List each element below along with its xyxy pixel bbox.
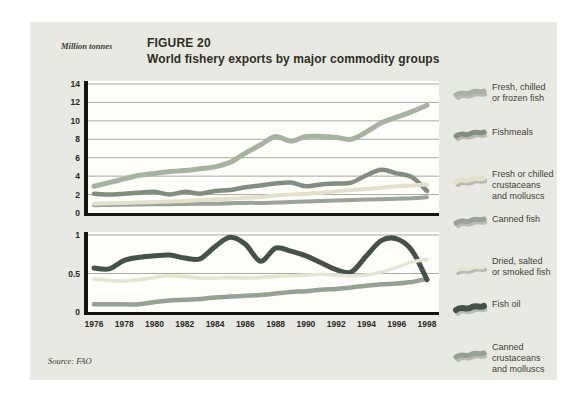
legend-label-line: or frozen fish <box>492 93 546 104</box>
y-tick-label: 6 <box>75 153 80 163</box>
legend-label-line: crustaceans <box>492 353 545 364</box>
legend-marker <box>453 262 487 278</box>
legend-label-line: Fresh or chilled <box>492 169 554 180</box>
legend-marker <box>453 348 487 364</box>
y-tick-label: 4 <box>75 171 80 181</box>
legend-label: Canned fish <box>492 214 540 225</box>
y-axis <box>84 232 88 315</box>
legend-label: Fresh, chilledor frozen fish <box>492 82 546 104</box>
y-tick-label: 0.5 <box>68 269 80 279</box>
legend-label-line: Fish oil <box>492 299 521 310</box>
legend-label: Fresh or chilledcrustaceansand molluscs <box>492 169 554 202</box>
legend-marker <box>453 127 487 143</box>
legend-label-line: and molluscs <box>492 191 554 202</box>
legend-marker <box>453 214 487 230</box>
x-tick-label: 1986 <box>236 319 255 329</box>
legend-label-line: and molluscs <box>492 364 545 375</box>
legend-label: Fishmeals <box>492 127 533 138</box>
y-tick-label: 0 <box>75 307 80 317</box>
legend-label-line: crustaceans <box>492 180 554 191</box>
y-tick-label: 1 <box>75 230 80 240</box>
y-tick-label: 14 <box>71 79 81 89</box>
legend-label-line: Dried, salted <box>492 256 551 267</box>
x-tick-label: 1978 <box>115 319 134 329</box>
x-tick-label: 1976 <box>85 319 104 329</box>
legend-label: Cannedcrustaceansand molluscs <box>492 342 545 375</box>
legend-marker <box>453 86 487 102</box>
x-tick-label: 1988 <box>266 319 285 329</box>
x-axis <box>84 312 439 315</box>
y-axis <box>84 81 88 216</box>
legend-label-line: or smoked fish <box>492 267 551 278</box>
y-tick-label: 12 <box>71 97 81 107</box>
legend-label-line: Canned fish <box>492 214 540 225</box>
y-tick-label: 2 <box>75 190 80 200</box>
legend-marker-line <box>456 306 484 310</box>
legend-label: Dried, saltedor smoked fish <box>492 256 551 278</box>
y-tick-label: 0 <box>75 208 80 218</box>
x-tick-label: 1994 <box>357 319 376 329</box>
legend-label-line: Fresh, chilled <box>492 82 546 93</box>
y-tick-label: 10 <box>71 116 81 126</box>
x-tick-label: 1992 <box>327 319 346 329</box>
x-tick-label: 1982 <box>175 319 194 329</box>
legend-marker <box>453 301 487 317</box>
x-tick-label: 1984 <box>206 319 225 329</box>
legend-label-line: Fishmeals <box>492 127 533 138</box>
legend-label-line: Canned <box>492 342 545 353</box>
x-axis <box>84 213 439 216</box>
legend: Fresh, chilledor frozen fishFishmealsFre… <box>453 0 573 403</box>
y-tick-label: 8 <box>75 134 80 144</box>
legend-marker <box>453 173 487 189</box>
x-tick-label: 1998 <box>418 319 437 329</box>
x-tick-label: 1990 <box>296 319 315 329</box>
x-tick-label: 1996 <box>387 319 406 329</box>
legend-label: Fish oil <box>492 299 521 310</box>
x-tick-label: 1980 <box>145 319 164 329</box>
source-note: Source: FAO <box>48 356 92 366</box>
